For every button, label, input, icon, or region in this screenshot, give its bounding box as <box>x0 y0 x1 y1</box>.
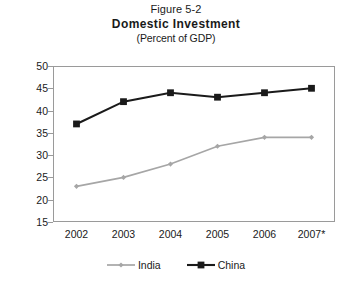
y-axis-tick-mark <box>48 200 53 201</box>
y-axis-tick-label: 50 <box>36 60 48 72</box>
y-axis-tick-mark <box>48 177 53 178</box>
data-point-china-2003 <box>120 98 127 105</box>
y-axis-tick-label: 40 <box>36 105 48 117</box>
y-axis-tick-label: 45 <box>36 82 48 94</box>
data-point-china-2005 <box>214 94 221 101</box>
y-axis-tick-mark <box>48 222 53 223</box>
figure-number: Figure 5-2 <box>0 3 352 17</box>
x-axis-tick-label: 2004 <box>159 228 182 240</box>
y-axis-tick-mark <box>48 155 53 156</box>
legend-label: China <box>218 259 245 271</box>
chart-legend: IndiaChina <box>0 259 352 271</box>
data-point-china-2007 <box>308 85 315 92</box>
legend-label: India <box>138 259 161 271</box>
legend-item-china[interactable]: China <box>187 259 245 271</box>
data-point-china-2004 <box>167 89 174 96</box>
x-axis-tick-label: 2003 <box>112 228 135 240</box>
data-point-india-2007 <box>309 135 314 140</box>
legend-swatch-square-icon <box>187 260 215 270</box>
legend-swatch-diamond-icon <box>107 260 135 270</box>
data-point-china-2006 <box>261 89 268 96</box>
page-title: Domestic Investment <box>0 17 352 32</box>
series-line-india <box>77 137 312 186</box>
data-point-china-2002 <box>73 121 80 128</box>
data-point-india-2004 <box>168 161 173 166</box>
y-axis-tick-mark <box>48 133 53 134</box>
x-axis-tick-label: 2006 <box>253 228 276 240</box>
x-axis-tick-label: 2005 <box>206 228 229 240</box>
data-point-india-2003 <box>121 175 126 180</box>
y-axis-tick-label: 15 <box>36 216 48 228</box>
data-point-india-2006 <box>262 135 267 140</box>
figure-container: Figure 5-2 Domestic Investment (Percent … <box>0 0 352 286</box>
y-axis-tick-label: 25 <box>36 171 48 183</box>
x-axis-labels: 200220032004200520062007* <box>53 228 335 244</box>
y-axis-tick-label: 30 <box>36 149 48 161</box>
y-axis-tick-mark <box>48 66 53 67</box>
data-point-india-2005 <box>215 144 220 149</box>
y-axis-tick-label: 20 <box>36 194 48 206</box>
data-point-india-2002 <box>74 184 79 189</box>
x-axis-tick-label: 2002 <box>65 228 88 240</box>
legend-item-india[interactable]: India <box>107 259 161 271</box>
y-axis-tick-mark <box>48 111 53 112</box>
y-axis-labels: 1520253035404550 <box>22 66 48 222</box>
chart-plot <box>53 66 335 222</box>
chart-subtitle: (Percent of GDP) <box>0 32 352 45</box>
chart-title-block: Figure 5-2 Domestic Investment (Percent … <box>0 3 352 45</box>
x-axis-tick-label: 2007* <box>298 228 325 240</box>
y-axis-tick-label: 35 <box>36 127 48 139</box>
series-line-china <box>77 88 312 124</box>
y-axis-tick-mark <box>48 88 53 89</box>
